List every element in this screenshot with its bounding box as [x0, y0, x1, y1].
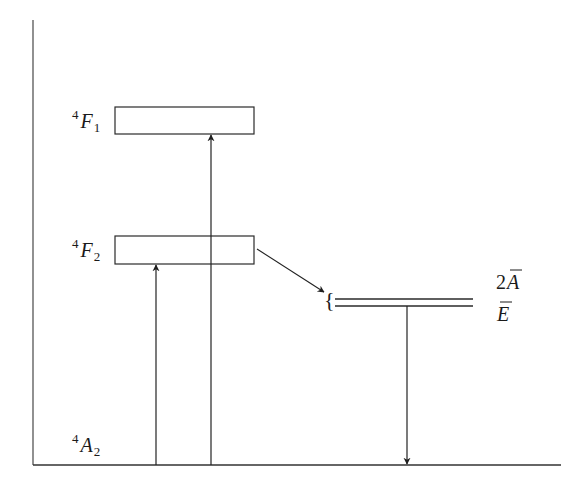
- svg-text:E: E: [496, 303, 509, 325]
- level-E-label: E: [496, 302, 512, 325]
- svg-text:A: A: [505, 271, 520, 293]
- level-4F2-box: [115, 236, 254, 264]
- relaxation-arrow: [257, 249, 324, 292]
- level-4F1-label: 4F1: [72, 107, 100, 135]
- level-2A-label: 2 A: [496, 270, 522, 293]
- level-4F1-box: [115, 107, 254, 134]
- doublet-brace: {: [324, 287, 335, 312]
- svg-text:2: 2: [496, 271, 506, 293]
- level-4A2-label: 4A2: [72, 431, 100, 459]
- energy-level-diagram: 4F1 4F2 4A2 { 2 A E: [0, 0, 582, 484]
- level-4F2-label: 4F2: [72, 236, 100, 264]
